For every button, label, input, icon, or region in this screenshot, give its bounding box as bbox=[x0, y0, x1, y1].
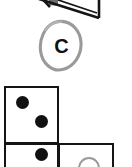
pip-filled bbox=[16, 96, 29, 109]
cell-bottom-left bbox=[4, 143, 59, 167]
screenshot-canvas: C bbox=[0, 0, 132, 167]
cell-bottom-right bbox=[58, 143, 114, 167]
cell-top-left bbox=[4, 86, 59, 144]
pip-filled bbox=[35, 115, 48, 128]
domino-grid bbox=[0, 82, 132, 167]
circled-letter: C bbox=[38, 19, 84, 73]
pip-outline bbox=[78, 157, 100, 167]
pip-filled bbox=[35, 148, 48, 161]
circled-letter-glyph: C bbox=[38, 19, 84, 73]
